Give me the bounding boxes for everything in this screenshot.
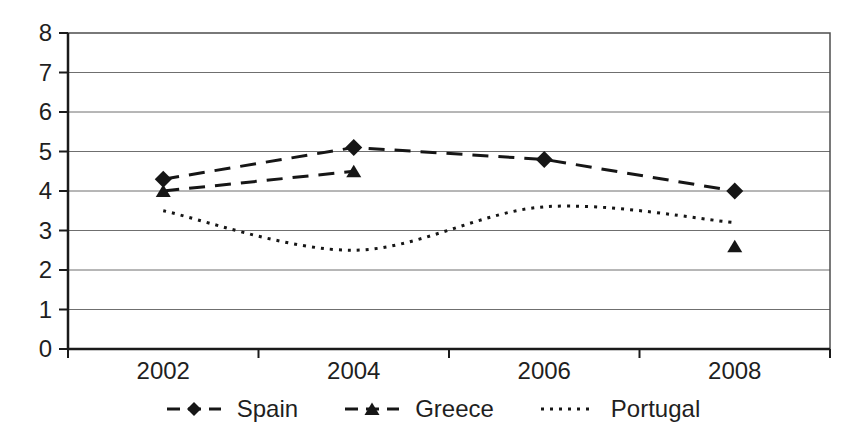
y-axis-tick-label-2: 2 bbox=[14, 256, 52, 284]
legend-label-greece: Greece bbox=[415, 395, 494, 423]
diamond-marker-spain bbox=[345, 139, 362, 156]
legend-label-spain: Spain bbox=[237, 395, 298, 423]
series-line-spain bbox=[163, 148, 735, 191]
y-axis-tick-label-4: 4 bbox=[14, 177, 52, 205]
y-axis-tick-label-0: 0 bbox=[14, 335, 52, 363]
legend-item-spain: Spain bbox=[166, 395, 298, 423]
x-axis-tick-label-2004: 2004 bbox=[306, 357, 402, 385]
legend-triangle-line-icon bbox=[344, 400, 400, 418]
series-line-portugal bbox=[163, 206, 735, 250]
y-axis-tick-label-8: 8 bbox=[14, 19, 52, 47]
y-axis-tick-label-3: 3 bbox=[14, 217, 52, 245]
legend: SpainGreecePortugal bbox=[0, 395, 866, 423]
x-axis-tick-label-2008: 2008 bbox=[687, 357, 783, 385]
legend-diamond-line-icon bbox=[166, 400, 222, 418]
diamond-marker-spain bbox=[726, 183, 743, 200]
y-axis-tick-label-5: 5 bbox=[14, 138, 52, 166]
x-axis-tick-label-2002: 2002 bbox=[115, 357, 211, 385]
legend-item-portugal: Portugal bbox=[540, 395, 700, 423]
y-axis-tick-label-6: 6 bbox=[14, 98, 52, 126]
y-axis-tick-label-1: 1 bbox=[14, 296, 52, 324]
x-axis-tick-label-2006: 2006 bbox=[496, 357, 592, 385]
legend-item-greece: Greece bbox=[344, 395, 494, 423]
legend-label-portugal: Portugal bbox=[611, 395, 700, 423]
line-chart-figure: 012345678 2002200420062008 SpainGreecePo… bbox=[0, 0, 866, 447]
triangle-marker-greece bbox=[727, 240, 742, 253]
diamond-marker-spain bbox=[536, 151, 553, 168]
y-axis-tick-label-7: 7 bbox=[14, 59, 52, 87]
legend-line-icon bbox=[540, 400, 596, 418]
